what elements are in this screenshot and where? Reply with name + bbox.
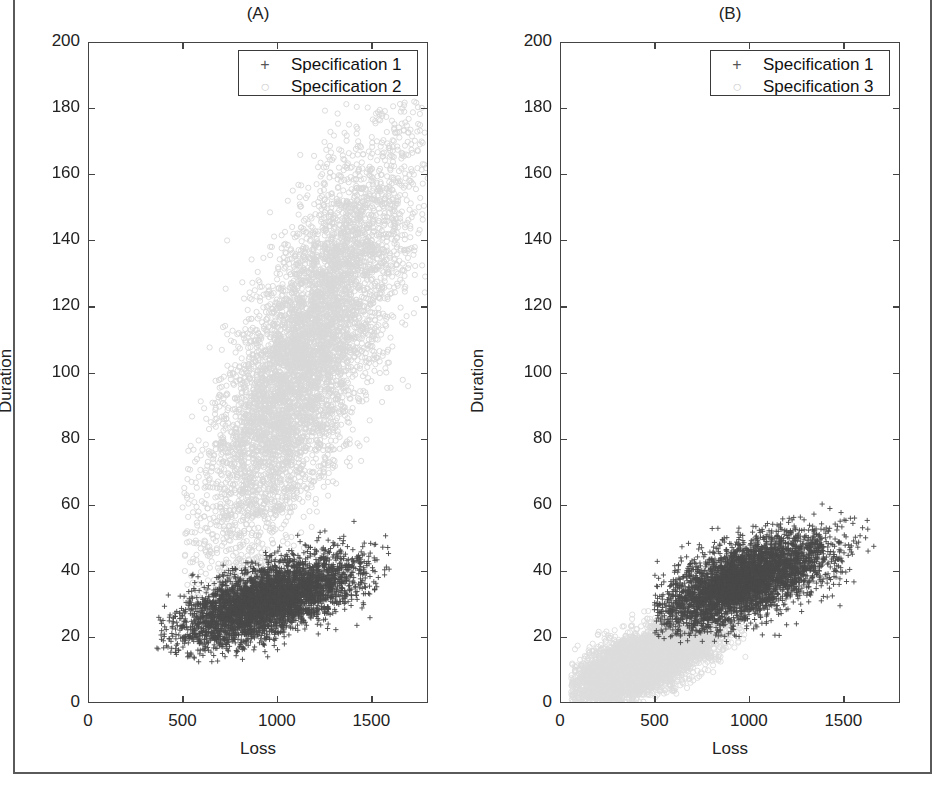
legend-entry: +Specification 1	[717, 54, 881, 76]
y-tick-mark	[893, 240, 900, 241]
panel-a-legend: +Specification 1○Specification 2	[238, 50, 418, 96]
panel-a-y-axis-label: Duration	[0, 348, 16, 412]
x-tick-label: 1500	[803, 711, 883, 731]
y-tick-mark	[88, 240, 95, 241]
legend-entry: +Specification 1	[245, 54, 409, 76]
x-tick-mark	[654, 696, 655, 703]
y-tick-label: 0	[498, 692, 552, 712]
x-tick-label: 1500	[331, 711, 411, 731]
y-tick-mark	[421, 108, 428, 109]
legend-label: Specification 1	[285, 55, 402, 75]
y-tick-label: 140	[26, 229, 80, 249]
y-tick-mark	[893, 439, 900, 440]
y-tick-mark	[560, 108, 567, 109]
y-tick-label: 160	[498, 163, 552, 183]
y-tick-mark	[421, 373, 428, 374]
x-tick-mark	[371, 696, 372, 703]
y-tick-mark	[893, 571, 900, 572]
y-tick-mark	[421, 439, 428, 440]
plus-marker-icon: +	[717, 57, 757, 73]
y-tick-mark	[893, 637, 900, 638]
x-tick-label: 500	[614, 711, 694, 731]
x-tick-mark	[654, 42, 655, 49]
y-tick-label: 140	[498, 229, 552, 249]
y-tick-mark	[88, 571, 95, 572]
y-tick-label: 60	[498, 494, 552, 514]
y-tick-mark	[421, 505, 428, 506]
panel-a-title: (A)	[228, 4, 288, 24]
y-tick-label: 40	[26, 560, 80, 580]
y-tick-label: 200	[498, 31, 552, 51]
panel-b-axes-box	[560, 42, 900, 703]
x-tick-mark	[182, 696, 183, 703]
x-tick-label: 0	[48, 711, 128, 731]
y-tick-mark	[88, 306, 95, 307]
panel-b-title: (B)	[700, 4, 760, 24]
y-tick-label: 80	[26, 428, 80, 448]
y-tick-label: 40	[498, 560, 552, 580]
y-tick-label: 60	[26, 494, 80, 514]
y-tick-mark	[421, 637, 428, 638]
x-tick-mark	[843, 696, 844, 703]
y-tick-label: 0	[26, 692, 80, 712]
y-tick-label: 100	[26, 362, 80, 382]
panel-b-legend: +Specification 1○Specification 3	[710, 50, 890, 96]
y-tick-mark	[893, 306, 900, 307]
y-tick-mark	[893, 373, 900, 374]
circle-marker-icon: ○	[245, 79, 285, 95]
y-tick-label: 100	[498, 362, 552, 382]
y-tick-label: 120	[498, 295, 552, 315]
y-tick-mark	[88, 174, 95, 175]
y-tick-mark	[560, 240, 567, 241]
x-tick-label: 500	[142, 711, 222, 731]
x-tick-label: 1000	[709, 711, 789, 731]
panel-a-axes-box	[88, 42, 428, 703]
y-tick-mark	[88, 108, 95, 109]
x-tick-mark	[277, 42, 278, 49]
y-tick-mark	[893, 505, 900, 506]
y-tick-mark	[88, 637, 95, 638]
y-tick-mark	[421, 174, 428, 175]
circle-marker-icon: ○	[717, 79, 757, 95]
legend-label: Specification 3	[757, 77, 874, 97]
panel-a-x-axis-label: Loss	[198, 739, 318, 759]
y-tick-mark	[421, 240, 428, 241]
y-tick-mark	[560, 505, 567, 506]
figure-canvas: (A) Duration Loss +Specification 1○Speci…	[0, 0, 942, 790]
y-tick-mark	[560, 373, 567, 374]
x-tick-mark	[182, 42, 183, 49]
legend-entry: ○Specification 3	[717, 76, 881, 98]
y-tick-label: 180	[26, 97, 80, 117]
y-tick-label: 120	[26, 295, 80, 315]
y-tick-mark	[88, 373, 95, 374]
plus-marker-icon: +	[245, 57, 285, 73]
panel-b-y-axis-label: Duration	[468, 348, 488, 412]
y-tick-mark	[893, 174, 900, 175]
y-tick-mark	[893, 108, 900, 109]
y-tick-mark	[560, 637, 567, 638]
x-tick-label: 0	[520, 711, 600, 731]
y-tick-mark	[88, 439, 95, 440]
y-tick-mark	[560, 439, 567, 440]
y-tick-label: 180	[498, 97, 552, 117]
y-tick-label: 20	[498, 626, 552, 646]
y-tick-mark	[421, 306, 428, 307]
y-tick-label: 160	[26, 163, 80, 183]
panel-b-x-axis-label: Loss	[670, 739, 790, 759]
y-tick-label: 80	[498, 428, 552, 448]
x-tick-mark	[749, 696, 750, 703]
y-tick-label: 200	[26, 31, 80, 51]
y-tick-mark	[560, 306, 567, 307]
legend-label: Specification 1	[757, 55, 874, 75]
y-tick-mark	[421, 571, 428, 572]
legend-entry: ○Specification 2	[245, 76, 409, 98]
y-tick-mark	[560, 174, 567, 175]
y-tick-mark	[560, 571, 567, 572]
x-tick-mark	[749, 42, 750, 49]
x-tick-mark	[371, 42, 372, 49]
y-tick-label: 20	[26, 626, 80, 646]
x-tick-mark	[843, 42, 844, 49]
x-tick-mark	[277, 696, 278, 703]
y-tick-mark	[88, 505, 95, 506]
x-tick-label: 1000	[237, 711, 317, 731]
